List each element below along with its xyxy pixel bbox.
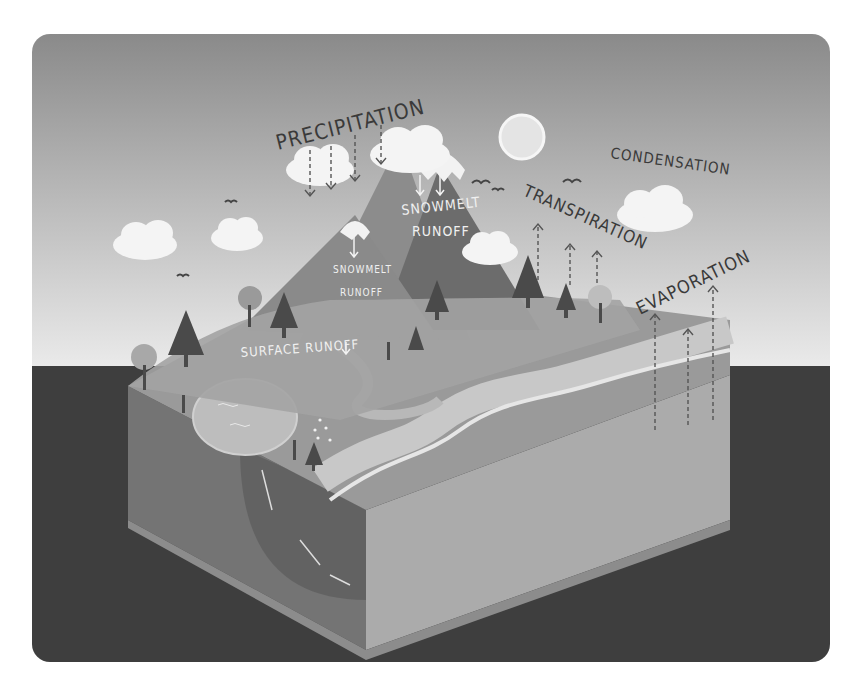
label-runoff-small: RUNOFF <box>340 287 383 298</box>
label-runoff-large: RUNOFF <box>412 223 470 239</box>
sun-icon <box>500 115 544 159</box>
label-snowmelt-small: SNOWMELT <box>333 264 392 275</box>
water-cycle-illustration: PRECIPITATION CONDENSATION TRANSPIRATION… <box>0 0 847 698</box>
